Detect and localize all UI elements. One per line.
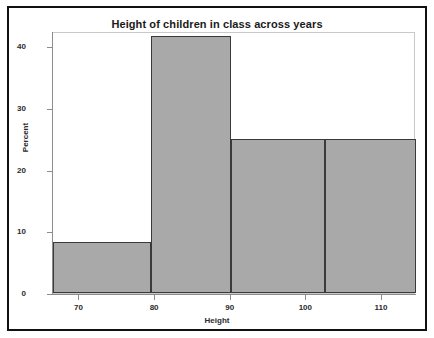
y-tick-mark [47,171,52,172]
x-tick-mark [230,295,231,300]
plot-area [52,32,415,294]
y-tick-label: 40 [0,43,26,51]
y-axis-line [52,32,53,295]
chart-title: Height of children in class across years [9,18,425,30]
y-tick-mark [47,232,52,233]
y-tick-mark [47,294,52,295]
x-tick-label: 70 [58,303,98,312]
histogram-bar [151,36,230,293]
x-axis-title: Height [9,316,425,325]
x-tick-label: 110 [361,303,401,312]
x-tick-label: 80 [134,303,174,312]
x-tick-label: 90 [210,303,250,312]
y-axis-title: Percent [21,78,30,198]
y-tick-mark [47,47,52,48]
histogram-bar [53,242,151,293]
y-tick-label: 10 [0,228,26,236]
x-tick-mark [381,295,382,300]
y-tick-label: 0 [0,290,26,298]
histogram-bar [231,139,326,293]
histogram-bars [53,33,414,293]
x-tick-label: 100 [285,303,325,312]
x-tick-mark [78,295,79,300]
x-axis-line [52,294,416,295]
y-tick-mark [47,109,52,110]
figure-frame: Height of children in class across years… [7,6,427,331]
x-tick-mark [154,295,155,300]
histogram-bar [325,139,416,293]
x-tick-mark [305,295,306,300]
